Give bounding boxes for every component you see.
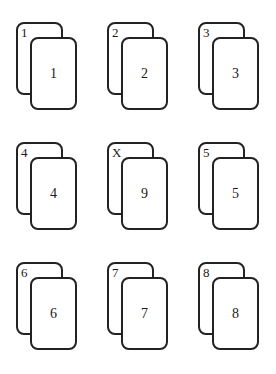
front-card: 4 [30, 157, 77, 230]
card-pair-9: 8 8 [198, 262, 260, 352]
back-card-label: 8 [203, 266, 210, 279]
card-pair-2: 2 2 [107, 22, 169, 112]
front-card: 3 [212, 37, 259, 110]
card-pair-4: 4 4 [16, 142, 78, 232]
card-pair-3: 3 3 [198, 22, 260, 112]
card-pair-1: 1 1 [16, 22, 78, 112]
front-card-label: 1 [32, 67, 75, 81]
back-card-label: 6 [21, 266, 28, 279]
front-card-label: 9 [123, 187, 166, 201]
back-card-label: X [112, 146, 121, 159]
back-card-label: 4 [21, 146, 28, 159]
front-card: 6 [30, 277, 77, 350]
front-card-label: 2 [123, 67, 166, 81]
front-card-label: 5 [214, 187, 257, 201]
front-card-label: 8 [214, 307, 257, 321]
front-card: 2 [121, 37, 168, 110]
front-card-label: 7 [123, 307, 166, 321]
front-card-label: 4 [32, 187, 75, 201]
front-card: 5 [212, 157, 259, 230]
card-pair-5: X 9 [107, 142, 169, 232]
back-card-label: 1 [21, 26, 28, 39]
front-card: 9 [121, 157, 168, 230]
back-card-label: 3 [203, 26, 210, 39]
front-card-label: 6 [32, 307, 75, 321]
front-card: 7 [121, 277, 168, 350]
card-pair-7: 6 6 [16, 262, 78, 352]
card-pair-8: 7 7 [107, 262, 169, 352]
front-card: 1 [30, 37, 77, 110]
front-card: 8 [212, 277, 259, 350]
back-card-label: 2 [112, 26, 119, 39]
back-card-label: 5 [203, 146, 210, 159]
card-pair-6: 5 5 [198, 142, 260, 232]
back-card-label: 7 [112, 266, 119, 279]
front-card-label: 3 [214, 67, 257, 81]
